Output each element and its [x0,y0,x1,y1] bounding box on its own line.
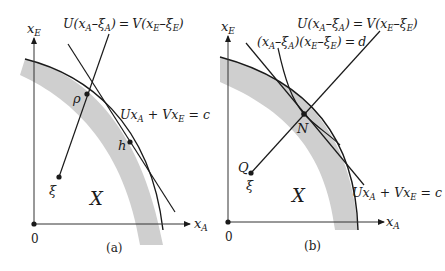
point-N [301,111,307,117]
xi-label-a: ξ [49,183,57,198]
equation-top-b: U(xA–ξA)=V(xE–ξE) [297,16,418,33]
y-axis-label-b: xE [221,19,235,36]
h-label: h [118,138,126,153]
origin-dot-a [31,221,36,226]
budget-line-a [68,44,175,212]
P-label: ρ [72,91,81,106]
point-P [84,91,89,96]
panel-a: xE xA 0 ρ h ξ X U(xA–ξA)=V(xE–ξE) UxA+Vx… [20,16,210,255]
origin-label-b: 0 [225,230,233,244]
economics-diagram: xE xA 0 ρ h ξ X U(xA–ξA)=V(xE–ξE) UxA+Vx… [0,0,445,271]
y-axis-label-a: xE [27,21,41,38]
xi-label-b: ξ [246,178,254,193]
caption-b: (b) [304,239,321,253]
panel-b: xE xA 0 N Q ξ X U(xA–ξA)=V(xE–ξE) (xA–ξA… [220,16,442,253]
region-label-b: X [290,185,306,206]
origin-label-a: 0 [31,232,39,246]
x-axis-label-a: xA [194,216,208,233]
point-xi-a [56,174,61,179]
N-label: N [296,121,309,136]
caption-a: (a) [106,241,123,255]
point-Q [248,170,253,175]
point-h [127,139,132,144]
Q-label: Q [238,160,249,175]
equation-top-a: U(xA–ξA)=V(xE–ξE) [63,16,184,33]
region-label-a: X [88,188,104,209]
equation-hyperbola-b: (xA–ξA)(xE–ξE)=d [257,34,366,51]
x-axis-label-b: xA [386,214,400,231]
equation-line-b: UxA+VxE=c [352,185,442,202]
equation-line-a: UxA+VxE=c [120,107,210,124]
origin-dot-b [225,219,230,224]
